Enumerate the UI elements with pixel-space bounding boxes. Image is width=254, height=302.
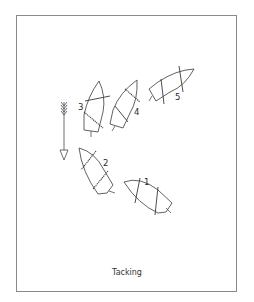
boat-4-hull	[110, 80, 137, 128]
boat-3-label: 3	[78, 102, 83, 112]
boat-3-mainsail	[84, 112, 103, 128]
boat-3-hull	[84, 81, 104, 132]
boat-2-jib	[81, 151, 96, 170]
boat-4: 4	[110, 80, 140, 131]
boat-4-jib	[125, 89, 140, 102]
boat-5-label: 5	[175, 92, 180, 102]
boat-4-label: 4	[134, 107, 139, 117]
boat-5-rudder	[149, 96, 152, 101]
boat-4-mainsail	[115, 106, 128, 122]
boat-2-mainsail	[93, 171, 108, 189]
boat-5: 5	[149, 66, 194, 104]
boat-5-hull	[149, 69, 194, 101]
boat-1: 1	[124, 177, 172, 215]
boat-5-mainsail	[161, 79, 164, 104]
wind-arrow-icon	[60, 102, 68, 160]
boat-1-mainsail	[155, 187, 158, 215]
boat-1-label: 1	[144, 177, 149, 187]
tacking-diagram: 1 2 3 4 5	[0, 0, 254, 302]
boat-4-rudder	[112, 126, 115, 131]
figure-caption: Tacking	[0, 268, 254, 277]
boat-2-label: 2	[103, 158, 108, 168]
boat-2-rudder	[109, 191, 115, 193]
boat-3: 3	[78, 81, 110, 137]
boat-5-jib	[179, 66, 183, 92]
boat-2: 2	[79, 148, 115, 194]
